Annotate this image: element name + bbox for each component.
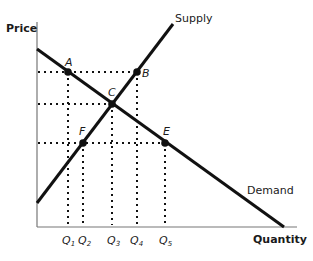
y-axis-title: Price — [6, 22, 37, 35]
point-c — [108, 100, 116, 108]
point-a-label: A — [64, 56, 73, 69]
point-f — [79, 139, 87, 147]
point-e-label: E — [163, 125, 170, 138]
supply-demand-diagram: A B C F E Price Quantity Supply Demand Q… — [0, 0, 313, 261]
x-axis-title: Quantity — [253, 233, 307, 246]
point-e — [161, 139, 169, 147]
demand-curve — [37, 49, 284, 227]
point-b-label: B — [142, 67, 150, 80]
point-f-label: F — [79, 125, 86, 138]
q3-label: Q3 — [107, 234, 120, 248]
point-a — [64, 68, 72, 76]
q4-label: Q4 — [130, 234, 143, 248]
supply-label: Supply — [175, 12, 213, 25]
point-c-label: C — [108, 86, 116, 99]
q5-label: Q5 — [159, 234, 173, 248]
q2-label: Q2 — [78, 234, 92, 248]
supply-curve — [37, 24, 173, 203]
q1-label: Q1 — [62, 234, 75, 248]
demand-label: Demand — [247, 184, 294, 197]
point-b — [133, 68, 141, 76]
